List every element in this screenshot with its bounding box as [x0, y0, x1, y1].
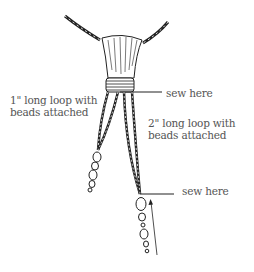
long-loop-label: 2" long loop with beads attached — [148, 117, 235, 141]
arrow-icon — [149, 199, 158, 255]
long-loop-label-line2: beads attached — [148, 129, 235, 141]
sew-here-top-label: sew here — [166, 87, 213, 99]
thread-wrap — [106, 78, 134, 92]
short-loop-label: 1" long loop with beads attached — [10, 94, 88, 118]
short-loop-label-line1: 1" long loop with — [10, 94, 88, 106]
short-loop-label-line2: beads attached — [10, 106, 88, 118]
tassel-head — [102, 35, 142, 78]
sew-here-bottom-label: sew here — [182, 185, 229, 197]
long-loop-label-line1: 2" long loop with — [148, 117, 235, 129]
short-bead-loop — [88, 92, 118, 192]
long-bead-loop — [124, 92, 149, 253]
